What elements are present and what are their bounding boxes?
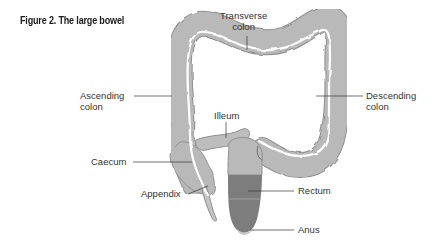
label-transverse-colon: Transverse colon bbox=[220, 10, 267, 32]
label-transverse-line2: colon bbox=[220, 21, 267, 32]
label-ascending-line1: Ascending bbox=[80, 90, 124, 101]
label-ascending-line2: colon bbox=[80, 101, 124, 112]
label-descending-line1: Descending bbox=[366, 90, 416, 101]
label-rectum: Rectum bbox=[298, 185, 331, 196]
label-caecum: Caecum bbox=[91, 156, 126, 167]
label-appendix: Appendix bbox=[141, 188, 181, 199]
label-ascending-colon: Ascending colon bbox=[80, 90, 124, 112]
label-anus: Anus bbox=[298, 224, 320, 235]
label-transverse-line1: Transverse bbox=[220, 10, 267, 21]
label-descending-line2: colon bbox=[366, 101, 416, 112]
rectum-upper bbox=[228, 137, 262, 175]
rectum bbox=[228, 137, 262, 235]
label-ileum: Illeum bbox=[214, 110, 239, 121]
label-descending-colon: Descending colon bbox=[366, 90, 416, 112]
rectum-lower bbox=[228, 175, 262, 233]
large-bowel-diagram bbox=[0, 0, 445, 251]
